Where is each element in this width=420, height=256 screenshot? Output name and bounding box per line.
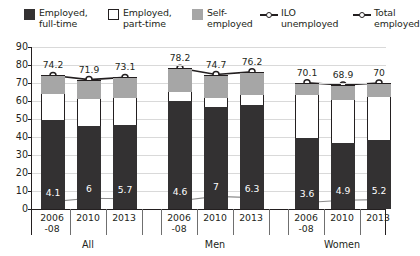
y-axis-tick-label: 60	[5, 95, 28, 106]
data-label-ilo-unemployed: 5.7	[107, 184, 143, 195]
y-tick	[28, 173, 32, 174]
bar-segment-self-employed	[113, 77, 137, 97]
x-axis-tick-label: 2013	[358, 212, 398, 223]
data-label-total-employed: 68.9	[325, 69, 361, 80]
y-axis-tick-label: 90	[5, 41, 28, 52]
bar-segment-self-employed	[240, 72, 264, 95]
data-label-total-employed: 78.2	[162, 52, 198, 63]
data-label-ilo-unemployed: 4.9	[325, 185, 361, 196]
data-label-ilo-unemployed: 4.1	[35, 187, 71, 198]
x-axis: 2006 -0820102013All2006 -0820102013Men20…	[31, 209, 385, 255]
bar-segment-employed-part-time	[295, 95, 319, 138]
data-label-total-employed: 70.1	[289, 67, 325, 78]
bar-segment-employed-full-time	[331, 143, 355, 209]
x-axis-tick-label: 2006 -08	[32, 212, 72, 234]
square-swatch-dark	[24, 9, 35, 20]
data-label-total-employed: 76.2	[234, 56, 270, 67]
legend-item-2[interactable]: Self- employed	[192, 8, 253, 29]
y-axis-tick-label: 70	[5, 77, 28, 88]
x-axis-group-label-men: Men	[175, 239, 255, 250]
y-tick	[28, 83, 32, 84]
legend-marker-icon	[359, 12, 365, 18]
bar-segment-self-employed	[331, 85, 355, 100]
legend-item-4[interactable]: Total employed	[353, 8, 420, 29]
y-tick	[28, 47, 32, 48]
y-axis-tick-label: 80	[5, 59, 28, 70]
x-axis-tick-label: 2010	[195, 212, 235, 223]
x-axis-tick-label: 2013	[231, 212, 271, 223]
y-tick	[28, 101, 32, 102]
legend-label: Total employed	[374, 8, 420, 29]
data-label-ilo-unemployed: 6	[71, 183, 107, 194]
y-axis-tick-label: 20	[5, 167, 28, 178]
chart-legend: Employed, full-timeEmployed, part-timeSe…	[24, 8, 392, 38]
y-tick	[28, 65, 32, 66]
legend-label: Employed, part-time	[123, 8, 172, 29]
line-open-marker	[260, 9, 278, 20]
y-axis-tick-label: 10	[5, 185, 28, 196]
line-diamond-marker	[353, 9, 371, 20]
y-axis-tick-label: 40	[5, 131, 28, 142]
bar-segment-employed-part-time	[367, 97, 391, 140]
legend-item-0[interactable]: Employed, full-time	[24, 8, 88, 29]
y-tick	[28, 137, 32, 138]
legend-label: Employed, full-time	[39, 8, 88, 29]
data-label-ilo-unemployed: 4.6	[162, 186, 198, 197]
plot-area: 010203040506070809074.271.973.14.165.778…	[31, 47, 386, 209]
y-tick	[28, 119, 32, 120]
bar-segment-employed-full-time	[77, 126, 101, 209]
x-axis-tick-label: 2006 -08	[286, 212, 326, 234]
data-label-ilo-unemployed: 7	[198, 181, 234, 192]
data-label-total-employed: 70	[361, 67, 397, 78]
legend-item-3[interactable]: ILO unemployed	[260, 8, 338, 29]
bar-segment-employed-full-time	[367, 140, 391, 209]
data-label-ilo-unemployed: 3.6	[289, 188, 325, 199]
bar-segment-self-employed	[367, 83, 391, 97]
x-axis-group-label-all: All	[48, 239, 128, 250]
x-axis-tick-label: 2006 -08	[159, 212, 199, 234]
bar-segment-employed-part-time	[240, 95, 264, 105]
square-swatch-grey	[192, 9, 203, 20]
bar-segment-employed-part-time	[77, 99, 101, 125]
bar-segment-employed-part-time	[41, 94, 65, 120]
bar-segment-self-employed	[41, 75, 65, 93]
y-tick	[28, 191, 32, 192]
legend-label: Self- employed	[207, 8, 253, 29]
bar-segment-employed-full-time	[113, 125, 137, 209]
bar-segment-self-employed	[77, 80, 101, 100]
data-label-total-employed: 74.7	[198, 59, 234, 70]
bar-segment-self-employed	[295, 83, 319, 96]
bar-segment-employed-part-time	[331, 100, 355, 144]
bar-segment-self-employed	[168, 68, 192, 92]
bar-segment-employed-part-time	[113, 98, 137, 125]
legend-item-1[interactable]: Employed, part-time	[108, 8, 172, 29]
x-axis-group-label-women: Women	[302, 239, 382, 250]
bar-segment-employed-part-time	[204, 98, 228, 108]
legend-marker-icon	[266, 12, 272, 18]
data-label-total-employed: 74.2	[35, 59, 71, 70]
square-swatch-white	[108, 9, 119, 20]
x-axis-tick-label: 2010	[322, 212, 362, 223]
bar-all-0[interactable]	[41, 47, 65, 209]
y-tick	[28, 155, 32, 156]
y-axis-tick-label: 0	[5, 203, 28, 214]
y-axis-tick-label: 30	[5, 149, 28, 160]
data-label-ilo-unemployed: 6.3	[234, 183, 270, 194]
y-axis-tick-label: 50	[5, 113, 28, 124]
data-label-ilo-unemployed: 5.2	[361, 185, 397, 196]
x-axis-tick-label: 2010	[68, 212, 108, 223]
bar-men-0[interactable]	[168, 47, 192, 209]
x-axis-tick-label: 2013	[104, 212, 144, 223]
data-label-total-employed: 73.1	[107, 61, 143, 72]
bar-segment-employed-full-time	[204, 107, 228, 209]
data-label-total-employed: 71.9	[71, 64, 107, 75]
bar-segment-employed-part-time	[168, 92, 192, 101]
bar-segment-self-employed	[204, 75, 228, 98]
legend-label: ILO unemployed	[281, 8, 338, 29]
